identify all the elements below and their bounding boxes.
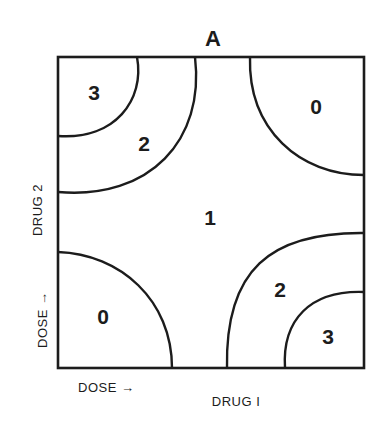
y-axis-dose-label: DOSE → [35,292,50,348]
y-axis-drug-label: DRUG 2 [30,184,45,236]
x-axis-dose-label: DOSE → [78,380,134,395]
region-label-top-right: 0 [310,95,322,118]
region-label-center: 1 [204,206,216,229]
contour-bottom-left [58,252,172,368]
region-label-top-left-outer: 2 [138,132,150,155]
region-label-bottom-right-inner: 3 [322,325,334,348]
x-axis-drug-label: DRUG I [212,394,261,409]
panel-label: A [205,26,221,51]
contour-top-right [250,57,364,175]
interaction-diagram: A 3 2 0 1 0 2 3 DOSE → DRUG I DOSE → DRU… [0,0,382,434]
region-label-top-left-inner: 3 [88,81,100,104]
region-label-bottom-left: 0 [97,305,109,328]
contour-top-left-outer [58,57,196,193]
contour-bottom-right-outer [227,233,364,368]
region-label-bottom-right-outer: 2 [274,278,286,301]
